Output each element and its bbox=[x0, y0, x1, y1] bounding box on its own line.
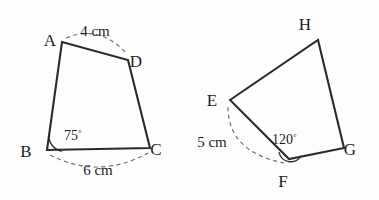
vertex-label-f: F bbox=[278, 172, 287, 191]
vertex-label-b: B bbox=[20, 142, 31, 161]
vertex-label-h: H bbox=[299, 15, 311, 34]
side-ad-length-label: 4 cm bbox=[80, 23, 110, 39]
vertex-label-c: C bbox=[150, 140, 161, 159]
side-bc-length-label: 6 cm bbox=[83, 162, 113, 178]
angle-at-b-degree-symbol: ° bbox=[78, 128, 82, 138]
angle-at-b-label: 75° bbox=[64, 128, 82, 143]
figure-quadrilateral-abcd: A D C B 4 cm 6 cm 75° bbox=[20, 23, 161, 178]
angle-at-f-value: 120 bbox=[272, 132, 293, 147]
geometry-figures-canvas: A D C B 4 cm 6 cm 75° H G F E 5 cm 120° bbox=[0, 0, 379, 200]
vertex-label-d: D bbox=[130, 52, 142, 71]
vertex-label-e: E bbox=[207, 91, 217, 110]
vertex-label-g: G bbox=[344, 140, 356, 159]
angle-at-f-degree-symbol: ° bbox=[293, 132, 297, 142]
angle-at-b-value: 75 bbox=[64, 128, 78, 143]
angle-at-f-label: 120° bbox=[272, 132, 297, 147]
figure-quadrilateral-efgh: H G F E 5 cm 120° bbox=[197, 15, 356, 191]
side-ef-length-label: 5 cm bbox=[197, 134, 227, 150]
vertex-label-a: A bbox=[44, 31, 57, 50]
